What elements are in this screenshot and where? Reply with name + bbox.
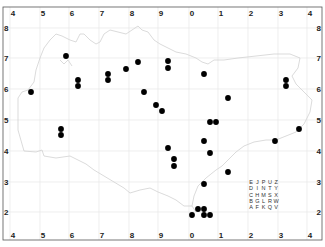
key-letter: R [268, 198, 272, 204]
y-tick-right: 8 [317, 24, 322, 33]
y-tick-right: 6 [317, 85, 322, 94]
x-tick-bottom: 7 [100, 231, 105, 240]
map-point [58, 132, 64, 138]
x-tick-top: 3 [279, 9, 284, 18]
map-point [105, 77, 111, 83]
map-point [171, 156, 177, 162]
key-letter: C [249, 192, 253, 198]
map-point [153, 102, 159, 108]
map-point [141, 89, 147, 95]
map-point [63, 53, 69, 59]
key-letter: G [255, 198, 259, 204]
map-point [207, 212, 213, 218]
map-point [201, 71, 207, 77]
key-letter: Q [268, 204, 273, 210]
map-point [201, 138, 207, 144]
y-tick-left: 8 [4, 24, 9, 33]
map-point [201, 181, 207, 187]
map-point [165, 58, 171, 64]
key-letter: A [249, 204, 253, 210]
key-letter: D [249, 185, 253, 191]
x-tick-bottom: 4 [308, 231, 313, 240]
map-point [123, 66, 129, 72]
x-tick-top: 0 [190, 9, 195, 18]
x-tick-bottom: 0 [190, 231, 195, 240]
map-point [201, 212, 207, 218]
y-tick-left: 3 [4, 178, 9, 187]
x-tick-bottom: 4 [11, 231, 16, 240]
x-tick-bottom: 8 [130, 231, 135, 240]
map-point [296, 126, 302, 132]
x-tick-bottom: 6 [70, 231, 75, 240]
map-point [207, 119, 213, 125]
x-tick-bottom: 3 [279, 231, 284, 240]
x-tick-top: 1 [219, 9, 224, 18]
map-point [207, 150, 213, 156]
y-tick-right: 2 [317, 208, 322, 217]
x-tick-top: 7 [100, 9, 105, 18]
y-tick-right: 7 [317, 54, 322, 63]
map-point [201, 206, 207, 212]
key-letter: V [274, 204, 278, 210]
y-tick-left: 6 [4, 85, 9, 94]
y-tick-right: 5 [317, 116, 322, 125]
map-point [272, 138, 278, 144]
map-point [165, 65, 171, 71]
x-tick-top: 8 [130, 9, 135, 18]
key-letter: L [262, 198, 265, 204]
key-letter: K [262, 204, 266, 210]
map-point [213, 119, 219, 125]
key-letter: P [262, 179, 266, 185]
map-point [28, 89, 34, 95]
map-point [189, 212, 195, 218]
x-tick-top: 2 [249, 9, 254, 18]
x-tick-bottom: 2 [249, 231, 254, 240]
x-tick-top: 6 [70, 9, 75, 18]
x-tick-top: 5 [41, 9, 46, 18]
key-letter: S [268, 192, 272, 198]
x-tick-top: 4 [11, 9, 16, 18]
map-point [195, 206, 201, 212]
key-letter: H [255, 192, 259, 198]
x-tick-bottom: 9 [159, 231, 164, 240]
key-letter: X [274, 192, 278, 198]
key-letter: Y [274, 185, 278, 191]
y-tick-right: 4 [317, 147, 322, 156]
map-point [135, 59, 141, 65]
map-point [159, 108, 165, 114]
x-tick-top: 9 [159, 9, 164, 18]
key-letter: J [256, 179, 259, 185]
y-tick-left: 4 [4, 147, 9, 156]
map-point [283, 83, 289, 89]
key-letter: U [268, 179, 272, 185]
map-point [58, 126, 64, 132]
map-figure: 456789012344567890123487654328765432 EJP… [0, 0, 325, 247]
x-tick-top: 4 [308, 9, 313, 18]
key-letter: N [262, 185, 266, 191]
map-point [75, 83, 81, 89]
y-tick-left: 7 [4, 54, 9, 63]
map-point [165, 145, 171, 151]
map-point [225, 169, 231, 175]
map-point [75, 77, 81, 83]
key-letter: B [249, 198, 253, 204]
y-tick-left: 5 [4, 116, 9, 125]
map-point [283, 77, 289, 83]
y-tick-left: 2 [4, 208, 9, 217]
key-letter: M [261, 192, 266, 198]
y-tick-right: 3 [317, 178, 322, 187]
map-point [225, 95, 231, 101]
map-point [171, 163, 177, 169]
key-letter: W [274, 198, 280, 204]
x-tick-bottom: 5 [41, 231, 46, 240]
x-tick-bottom: 1 [219, 231, 224, 240]
key-letter: E [249, 179, 253, 185]
map-point [105, 71, 111, 77]
